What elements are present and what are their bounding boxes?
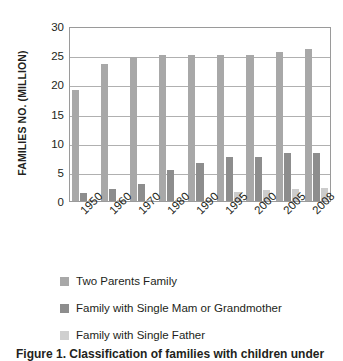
bar: [217, 55, 224, 201]
bar: [196, 163, 203, 201]
bar: [188, 55, 195, 201]
legend-swatch: [60, 277, 69, 286]
legend-item[interactable]: Family with Single Father: [60, 324, 340, 346]
y-axis-tick-label: 5: [28, 165, 64, 181]
legend-label: Family with Single Father: [76, 329, 205, 341]
y-axis-tick-label: 25: [28, 48, 64, 64]
bar-group: [245, 28, 274, 201]
bar: [159, 55, 166, 201]
bar-group: [274, 28, 303, 201]
bar: [167, 170, 174, 202]
bar-group: [186, 28, 215, 201]
legend-item[interactable]: Family with Single Mam or Grandmother: [60, 297, 340, 319]
bar: [246, 55, 253, 201]
legend-label: Family with Single Mam or Grandmother: [76, 302, 282, 314]
bar: [255, 157, 262, 201]
y-axis-tick-labels: 302520151050: [28, 19, 64, 210]
y-axis-tick-label: 30: [28, 19, 64, 35]
bar-group: [70, 28, 99, 201]
bar-group: [99, 28, 128, 201]
figure-caption: Figure 1. Classification of families wit…: [16, 347, 336, 361]
legend-swatch: [60, 331, 69, 340]
bar: [305, 49, 312, 201]
bar: [72, 90, 79, 201]
x-axis-tick-labels: 195019601970198019901995200020052008: [69, 202, 331, 262]
bar-group: [128, 28, 157, 201]
chart-legend: Two Parents FamilyFamily with Single Mam…: [60, 270, 340, 351]
bar: [226, 157, 233, 201]
legend-item[interactable]: Two Parents Family: [60, 270, 340, 292]
bar: [276, 52, 283, 201]
bar-group: [216, 28, 245, 201]
bar: [101, 64, 108, 201]
legend-swatch: [60, 304, 69, 313]
bars-layer: [70, 28, 330, 201]
y-axis-tick-label: 20: [28, 77, 64, 93]
y-axis-tick-label: 15: [28, 107, 64, 123]
bar-group: [303, 28, 332, 201]
plot-area: [69, 27, 331, 202]
y-axis-tick-label: 10: [28, 136, 64, 152]
y-axis-tick-label: 0: [28, 194, 64, 210]
bar: [284, 153, 291, 201]
legend-label: Two Parents Family: [76, 275, 177, 287]
bar: [130, 57, 137, 201]
bar-group: [157, 28, 186, 201]
bar: [313, 153, 320, 201]
